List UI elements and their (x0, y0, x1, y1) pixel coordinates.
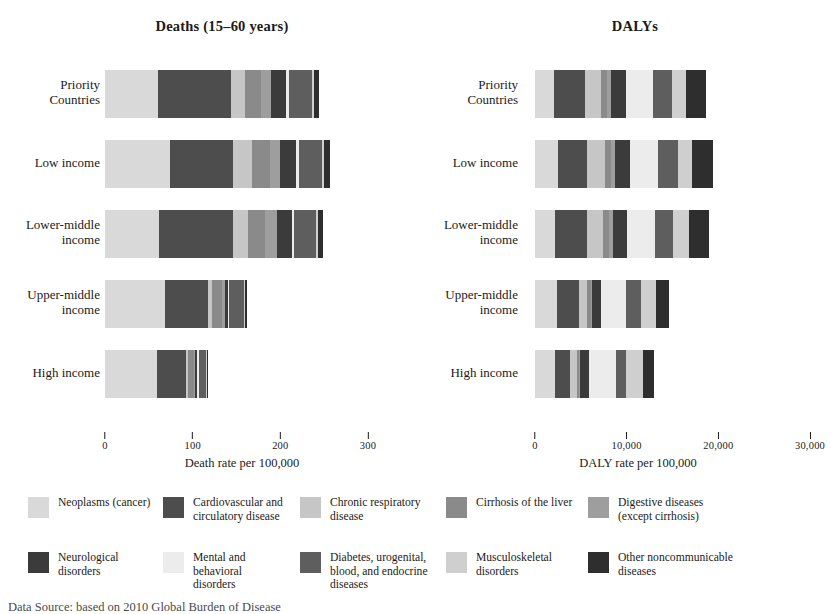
bar-segment (615, 140, 630, 188)
bar-segment (248, 210, 265, 258)
legend-swatch (300, 497, 321, 518)
tick-mark (104, 432, 105, 439)
bar-segment (616, 350, 626, 398)
stacked-bar (105, 140, 330, 188)
legend-swatch (446, 497, 467, 518)
bar-segment (580, 350, 589, 398)
bar-segment (579, 280, 586, 328)
bar-segment (535, 70, 554, 118)
tick-mark (192, 432, 193, 439)
bar-segment (207, 350, 209, 398)
bar-segment (270, 140, 281, 188)
bar-segment (233, 140, 252, 188)
source-note: Data Source: based on 2010 Global Burden… (8, 600, 508, 613)
bar-segment (611, 70, 625, 118)
stacked-bar (105, 210, 323, 258)
bar-segment (686, 70, 706, 118)
x-axis-tick: 100 (184, 432, 200, 451)
legend-swatch (300, 552, 321, 573)
bar-segment (658, 140, 677, 188)
bar-segment (299, 140, 323, 188)
legend-label: Neoplasms (cancer) (58, 496, 150, 510)
category-label: Low income (420, 132, 518, 194)
bar-segment (535, 350, 555, 398)
tick-mark (626, 432, 627, 439)
bar-segment (626, 280, 641, 328)
bar-segment (626, 350, 643, 398)
bar-row: Low income (420, 132, 836, 194)
bar-segment (105, 350, 157, 398)
bar-segment (689, 210, 709, 258)
bar-segment (535, 140, 558, 188)
legend-label: Cirrhosis of the liver (476, 496, 572, 510)
x-axis-title-deaths: Death rate per 100,000 (0, 456, 420, 471)
category-label: High income (420, 342, 518, 404)
bar-segment (105, 70, 158, 118)
bar-segment (627, 210, 655, 258)
bar-segment (265, 210, 277, 258)
bar-segment (294, 210, 316, 258)
bar-row: Low income (0, 132, 420, 194)
legend-item: Cirrhosis of the liver (446, 496, 584, 518)
bar-row: Priority Countries (0, 62, 420, 124)
bar-segment (692, 140, 713, 188)
legend-item: Musculoskeletal disorders (446, 551, 584, 578)
panel-title-deaths: Deaths (15–60 years) (0, 18, 420, 35)
bar-segment (199, 350, 206, 398)
stacked-bar (535, 350, 654, 398)
legend-item: Neurological disorders (28, 551, 160, 578)
bar-segment (555, 350, 571, 398)
bar-row: Lower-middle income (0, 202, 420, 264)
x-axis-tick: 0 (102, 432, 107, 451)
bar-segment (554, 70, 585, 118)
bar-segment (229, 280, 244, 328)
bar-segment (324, 140, 330, 188)
bar-segment (673, 210, 688, 258)
stacked-bar (535, 70, 706, 118)
bar-segment (314, 70, 319, 118)
category-label: Upper-middle income (0, 272, 100, 334)
bar-segment (231, 70, 245, 118)
bar-segment (280, 140, 296, 188)
legend-swatch (588, 497, 609, 518)
stacked-bar (105, 70, 319, 118)
bar-segment (557, 280, 580, 328)
category-label: High income (0, 342, 100, 404)
stacked-bar (535, 280, 669, 328)
chart-legend: Neoplasms (cancer)Cardiovascular and cir… (0, 496, 836, 596)
legend-swatch (588, 552, 609, 573)
category-label: Lower-middle income (0, 202, 100, 264)
bar-segment (105, 210, 159, 258)
chart-panel-dalys: DALYs Priority CountriesLow incomeLower-… (420, 0, 836, 500)
stacked-bar (535, 210, 709, 258)
bar-segment (630, 140, 658, 188)
bar-segment (271, 70, 287, 118)
legend-row: Neoplasms (cancer)Cardiovascular and cir… (0, 496, 836, 542)
legend-label: Digestive diseases (except cirrhosis) (618, 496, 703, 523)
legend-item: Diabetes, urogenital, blood, and endocri… (300, 551, 442, 592)
tick-mark (367, 432, 368, 439)
tick-label: 0 (102, 440, 107, 451)
stacked-bar (105, 280, 247, 328)
bar-segment (587, 140, 605, 188)
x-axis-title-dalys: DALY rate per 100,000 (420, 456, 836, 471)
tick-label: 300 (360, 440, 376, 451)
bar-segment (641, 280, 657, 328)
legend-label: Mental and behavioral disorders (193, 551, 297, 592)
legend-row: Neurological disordersMental and behavio… (0, 551, 836, 597)
bar-segment (318, 210, 323, 258)
bar-segment (589, 350, 616, 398)
bar-segment (678, 140, 692, 188)
bar-segment (672, 70, 687, 118)
tick-mark (280, 432, 281, 439)
category-label: Low income (0, 132, 100, 194)
bar-row: Upper-middle income (420, 272, 836, 334)
legend-label: Diabetes, urogenital, blood, and endocri… (330, 551, 428, 592)
bar-segment (159, 210, 233, 258)
bar-segment (261, 70, 271, 118)
bar-segment (555, 210, 587, 258)
stacked-bar (535, 140, 713, 188)
x-axis-tick: 200 (272, 432, 288, 451)
bar-segment (643, 350, 654, 398)
tick-label: 10,000 (612, 440, 642, 451)
